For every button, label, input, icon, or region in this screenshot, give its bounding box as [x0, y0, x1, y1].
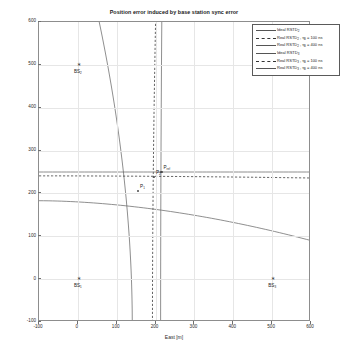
y-axis-tick-label: -100: [8, 318, 36, 323]
x-axis-tick-mark: [271, 321, 272, 324]
legend-line-sample: [255, 50, 277, 57]
x-axis-label: East [m]: [0, 334, 348, 340]
curve: [39, 201, 310, 241]
x-axis-tick-label: -100: [23, 324, 53, 329]
legend-item: Real RSTD3 , τB = 400 ns: [255, 65, 337, 73]
x-axis-tick-label: 400: [217, 324, 247, 329]
x-axis-tick-mark: [38, 321, 39, 324]
curve: [39, 176, 310, 178]
y-axis-tick-label: 300: [8, 147, 36, 152]
base-station-label: BS1: [74, 283, 82, 289]
grid-line-horizontal: [39, 193, 309, 194]
y-axis-tick-label: 200: [8, 190, 36, 195]
chart-title: Position error induced by base station s…: [0, 9, 348, 15]
grid-line-horizontal: [39, 108, 309, 109]
grid-line-horizontal: [39, 151, 309, 152]
x-axis-tick-mark: [155, 321, 156, 324]
y-axis-tick-mark: [38, 150, 41, 151]
x-axis-tick-label: 500: [256, 324, 286, 329]
grid-line-vertical: [194, 22, 195, 320]
y-axis-tick-mark: [38, 21, 41, 22]
legend-item-label: Real RSTD3 , τB = 400 ns: [277, 64, 322, 73]
legend-box: Ideal RSTD2Real RSTD2 , τB = 100 nsReal …: [252, 24, 340, 76]
x-axis-tick-mark: [232, 321, 233, 324]
y-axis-tick-label: 500: [8, 61, 36, 66]
legend-line-sample: [255, 27, 277, 34]
x-axis-tick-mark: [193, 321, 194, 324]
base-station-label: BS2: [74, 69, 82, 75]
x-axis-tick-label: 200: [140, 324, 170, 329]
figure-window: Position error induced by base station s…: [0, 0, 348, 352]
y-axis-tick-mark: [38, 64, 41, 65]
position-point-label: P2: [156, 170, 161, 176]
legend-line-sample: [255, 35, 277, 42]
position-point-label: Pref: [163, 165, 170, 171]
base-station-marker: ∗: [77, 64, 80, 67]
y-axis-tick-label: 0: [8, 276, 36, 281]
base-station-label: BS3: [268, 283, 276, 289]
position-point-label: P1: [140, 184, 145, 190]
base-station-marker: ∗: [77, 278, 80, 281]
x-axis-tick-label: 600: [295, 324, 325, 329]
y-axis-tick-label: 400: [8, 104, 36, 109]
x-axis-tick-mark: [77, 321, 78, 324]
grid-line-vertical: [117, 22, 118, 320]
legend-line-sample: [255, 65, 277, 72]
y-axis-tick-label: 100: [8, 233, 36, 238]
y-axis-tick-label: 600: [8, 18, 36, 23]
y-axis-tick-mark: [38, 235, 41, 236]
x-axis-tick-label: 100: [101, 324, 131, 329]
grid-line-horizontal: [39, 236, 309, 237]
y-axis-tick-mark: [38, 278, 41, 279]
y-axis-tick-mark: [38, 107, 41, 108]
legend-line-sample: [255, 42, 277, 49]
base-station-marker: ∗: [271, 278, 274, 281]
y-axis-tick-mark: [38, 192, 41, 193]
x-axis-tick-label: 300: [178, 324, 208, 329]
x-axis-tick-mark: [310, 321, 311, 324]
x-axis-tick-mark: [116, 321, 117, 324]
grid-line-vertical: [233, 22, 234, 320]
x-axis-tick-label: 0: [62, 324, 92, 329]
legend-line-sample: [255, 58, 277, 65]
